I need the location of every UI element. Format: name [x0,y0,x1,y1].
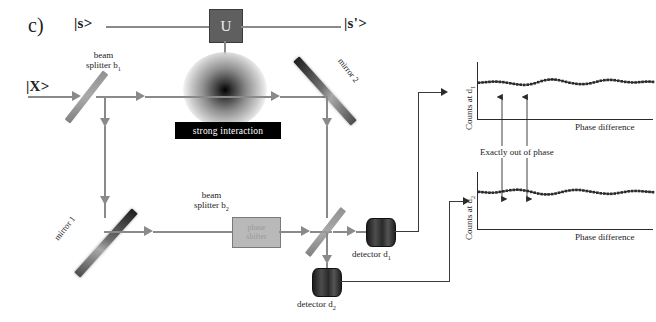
beam-splitter-2-label-line2: splitter b2 [194,200,229,212]
mirror-1 [74,208,137,277]
panel-label: c) [28,14,44,37]
u-gate: U [209,9,243,43]
plot-d2-ylabel: Counts at d2 [464,196,476,240]
beam-left-arm-a [104,96,106,120]
strong-interaction-blob [183,52,267,128]
rail-line-left [106,26,210,28]
detector-2 [312,268,342,297]
mirror-2-label: mirror 2 [336,56,361,84]
wire-d2-riser [449,201,450,282]
strong-interaction-label: strong interaction [175,122,281,139]
plot-d1-ylabel: Counts at d1 [464,86,476,130]
beam-upper-arm-a-arrow [136,91,145,101]
phase-shifter-label-line2: shifter [246,233,266,241]
wire-d1-into-plot [418,92,443,93]
rail-line-right [241,26,341,28]
plot-d2-xlabel: Phase difference [575,232,635,242]
beam-right-arm-a [326,96,328,120]
beam-right-arm-b [326,126,328,218]
beam-to-d1-b [356,231,366,233]
mirror-1-label: mirror 1 [52,214,77,242]
wire-d2-out [340,281,450,282]
output-state-label: |s'> [344,15,367,32]
beam-splitter-1-label: beam splitter b1 [86,50,121,72]
beam-upper-arm-c [280,96,327,98]
detector-1 [366,218,396,247]
beam-splitter-2-label-line1: beam [194,190,229,200]
plot-d1-xlabel: Phase difference [575,122,635,132]
beam-lower-arm-a [104,231,146,233]
wire-d1-arrow [441,88,448,96]
phase-shifter: phase shifter [232,217,281,248]
photon-input-label: |X> [26,78,50,95]
beam-upper-arm-a [96,96,138,98]
beam-upper-arm-b [145,96,273,98]
wire-d1-riser [418,92,419,232]
beam-lower-arm-c [279,231,303,233]
beam-splitter-1-label-line1: beam [86,50,121,60]
out-of-phase-label: Exactly out of phase [477,146,557,158]
detector-1-label: detector d1 [352,249,391,261]
beam-lower-arm-c-arrow [301,226,310,236]
input-state-label: |s> [74,15,93,32]
detector-2-label: detector d2 [297,299,336,311]
beam-to-d1-arrow [347,226,356,236]
beam-lower-arm-b [153,231,234,233]
beam-in [28,96,74,98]
figure-canvas: c) |s> U |s'> strong interaction beam sp… [0,0,656,322]
beam-upper-arm-b-arrow [271,91,280,101]
wire-d1-out [394,231,419,232]
beam-splitter-2-label: beam splitter b2 [194,190,229,212]
beam-to-d2-a [326,233,328,257]
beam-left-arm-arrow-2 [100,196,110,205]
beam-lower-arm-arrow [144,226,153,236]
